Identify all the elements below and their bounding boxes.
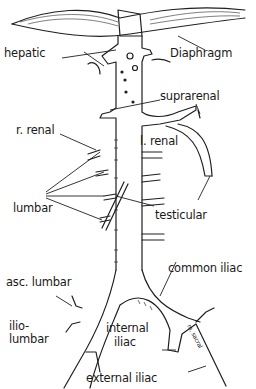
ivc-diagram: hepatic Diaphragm suprarenal r. renal l.…	[0, 0, 256, 389]
label-internal-iliac-line1: internal	[106, 322, 149, 334]
label-diaphragm: Diaphragm	[170, 47, 232, 59]
diaphragm-shape	[12, 8, 245, 37]
label-suprarenal: suprarenal	[160, 90, 219, 102]
label-asc-lumbar: asc. lumbar	[6, 276, 71, 288]
label-ilio-lumbar-line2: lumbar	[9, 333, 49, 345]
label-common-iliac: common iliac	[168, 262, 242, 274]
label-ilio-lumbar-line1: ilio-	[9, 320, 29, 332]
label-hepatic: hepatic	[4, 47, 45, 59]
label-testicular: testicular	[155, 209, 207, 221]
label-internal-iliac-line2: iliac	[114, 336, 136, 348]
label-external-iliac: external iliac	[86, 372, 157, 384]
label-r-renal: r. renal	[16, 124, 54, 136]
label-lumbar: lumbar	[13, 202, 53, 214]
label-l-renal: l. renal	[140, 135, 178, 147]
ivc-trunk	[88, 36, 212, 270]
vessel-wall-ticks	[114, 140, 152, 310]
